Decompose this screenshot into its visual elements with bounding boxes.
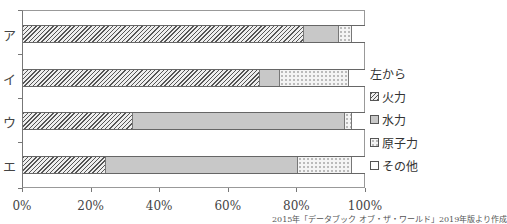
chart-plot-area bbox=[22, 10, 365, 188]
bar-segment-hydro bbox=[132, 113, 344, 129]
category-label: イ bbox=[3, 69, 16, 88]
legend-label: 水力 bbox=[382, 111, 406, 128]
bar-row bbox=[23, 69, 365, 87]
x-tick-label: 60% bbox=[214, 199, 241, 213]
legend-item-nuclear: 原子力 bbox=[370, 131, 418, 154]
white-swatch-icon bbox=[370, 161, 379, 170]
bar-segment-nuclear bbox=[279, 70, 347, 86]
bar-segment-nuclear bbox=[338, 26, 352, 42]
dotted-swatch-icon bbox=[370, 138, 379, 147]
bar-row bbox=[23, 112, 365, 130]
y-tick-mark bbox=[18, 188, 22, 189]
bar-row bbox=[23, 25, 365, 43]
bar-segment-hydro bbox=[259, 70, 280, 86]
x-tick-mark bbox=[22, 188, 23, 192]
legend-label: 原子力 bbox=[382, 134, 418, 151]
bar-segment-nuclear bbox=[297, 157, 352, 173]
bar-segment-hydro bbox=[303, 26, 337, 42]
legend-title: 左から bbox=[370, 62, 418, 85]
legend-item-other: その他 bbox=[370, 154, 418, 177]
bar-segment-fire bbox=[23, 113, 132, 129]
x-tick-mark bbox=[228, 188, 229, 192]
bar-segment-other bbox=[351, 157, 365, 173]
bar-segment-fire bbox=[23, 70, 259, 86]
y-tick-mark bbox=[18, 98, 22, 99]
source-note: 2015年「データブック オブ・ザ・ワールド」2019年版より作成 bbox=[272, 213, 507, 224]
legend-label: 火力 bbox=[382, 88, 406, 105]
x-tick-mark bbox=[365, 188, 366, 192]
x-tick-label: 100% bbox=[348, 199, 382, 213]
bar-segment-other bbox=[351, 113, 365, 129]
gray-swatch-icon bbox=[370, 115, 379, 124]
legend-title-text: 左から bbox=[370, 65, 406, 82]
x-tick-label: 80% bbox=[283, 199, 310, 213]
bar-segment-nuclear bbox=[344, 113, 351, 129]
y-tick-mark bbox=[18, 54, 22, 55]
bar-segment-fire bbox=[23, 26, 303, 42]
x-tick-label: 20% bbox=[77, 199, 104, 213]
bar-segment-fire bbox=[23, 157, 105, 173]
x-tick-label: 0% bbox=[12, 199, 31, 213]
category-label: ア bbox=[3, 25, 16, 44]
category-label: ウ bbox=[3, 112, 16, 131]
y-tick-mark bbox=[18, 142, 22, 143]
bar-row bbox=[23, 156, 365, 174]
x-tick-mark bbox=[159, 188, 160, 192]
legend-label: その他 bbox=[382, 157, 418, 174]
x-tick-mark bbox=[296, 188, 297, 192]
bar-segment-other bbox=[348, 70, 365, 86]
hatched-swatch-icon bbox=[370, 92, 379, 101]
category-label: エ bbox=[3, 156, 16, 175]
legend-item-fire: 火力 bbox=[370, 85, 418, 108]
x-tick-mark bbox=[91, 188, 92, 192]
legend: 左から 火力 水力 原子力 その他 bbox=[370, 62, 418, 177]
bar-segment-other bbox=[351, 26, 365, 42]
bar-segment-hydro bbox=[105, 157, 297, 173]
y-tick-mark bbox=[18, 10, 22, 11]
x-tick-label: 40% bbox=[146, 199, 173, 213]
legend-item-hydro: 水力 bbox=[370, 108, 418, 131]
